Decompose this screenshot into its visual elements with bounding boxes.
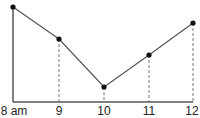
- data-point-marker: [56, 36, 61, 41]
- x-tick-label: 10: [97, 104, 111, 118]
- x-tick-label: 8 am: [1, 104, 28, 118]
- x-tick-label: 9: [56, 104, 63, 118]
- data-point-marker: [101, 84, 106, 89]
- x-axis-labels: 8 am 9 10 11 12: [1, 104, 199, 118]
- series-line: [13, 7, 193, 87]
- line-chart: 8 am 9 10 11 12: [0, 0, 200, 118]
- data-point-marker: [190, 20, 195, 25]
- plot-area: [10, 4, 195, 102]
- x-tick-label: 12: [185, 104, 199, 118]
- x-tick-label: 11: [143, 104, 156, 118]
- data-point-marker: [10, 4, 15, 9]
- data-point-marker: [146, 52, 151, 57]
